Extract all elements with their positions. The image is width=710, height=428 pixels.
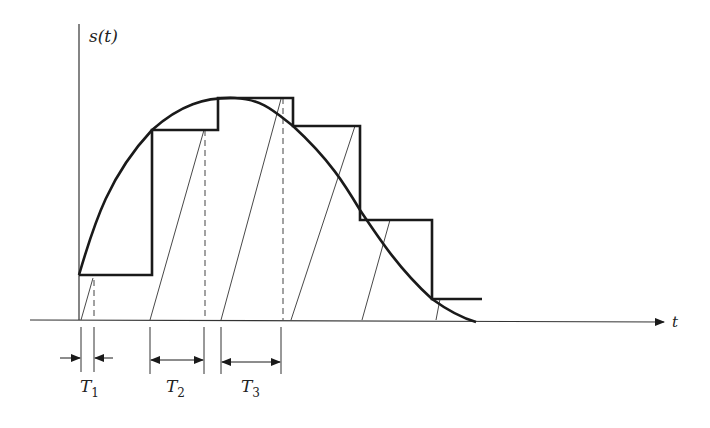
interval-T1-label: T1 — [80, 376, 99, 400]
interval-ticks — [81, 327, 281, 374]
signal-diagram: s(t) t T1 T2 T3 — [0, 0, 710, 428]
staircase-signal — [79, 98, 482, 299]
interval-T2-label: T2 — [166, 376, 185, 400]
x-axis-label: t — [672, 313, 679, 331]
sampling-lines — [81, 99, 440, 320]
x-axis — [30, 320, 664, 322]
y-axis-label: s(t) — [89, 26, 118, 46]
interval-T3-label: T3 — [241, 376, 260, 400]
continuous-signal-curve — [79, 98, 476, 322]
